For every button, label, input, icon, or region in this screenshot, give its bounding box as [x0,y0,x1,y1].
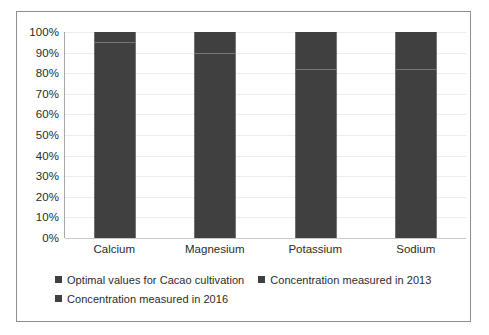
stacked-bar-calcium[interactable] [95,32,136,238]
y-axis-tick-80: 80% [36,67,59,79]
column-slot-potassium [266,32,366,238]
y-axis-tick-10: 10% [36,211,59,223]
legend-item-concentration-2016[interactable]: Concentration measured in 2016 [55,293,228,305]
y-axis-tick-60: 60% [36,108,59,120]
bar-segment-magnesium-s1[interactable] [195,32,236,54]
x-axis-label-magnesium: Magnesium [165,243,266,255]
x-axis-label-potassium: Potassium [265,243,366,255]
y-axis-tick-50: 50% [36,129,59,141]
chart-frame: 0% 10% 20% 30% 40% 50% 60% 70% 80% 90% 1… [16,11,471,322]
y-axis-tick-70: 70% [36,88,59,100]
bar-series-group [65,32,466,238]
bar-segment-potassium-s1[interactable] [295,32,336,70]
stacked-bar-magnesium[interactable] [195,32,236,238]
y-axis-tick-100: 100% [29,26,59,38]
column-slot-magnesium [165,32,265,238]
legend-swatch-icon [258,276,265,283]
chart-legend: Optimal values for Cacao cultivation Con… [55,270,455,308]
y-axis-tick-0: 0% [42,232,59,244]
legend-swatch-icon [55,295,62,302]
column-slot-calcium [65,32,165,238]
legend-swatch-icon [55,276,62,283]
bar-segment-calcium-s1[interactable] [95,32,136,43]
legend-row-2: Concentration measured in 2016 [55,289,455,308]
plot-area: 0% 10% 20% 30% 40% 50% 60% 70% 80% 90% 1… [64,32,466,238]
stacked-bar-potassium[interactable] [295,32,336,238]
bar-segment-potassium-s0[interactable] [295,70,336,238]
legend-label: Optimal values for Cacao cultivation [67,274,244,286]
y-axis-tick-40: 40% [36,150,59,162]
x-axis-label-calcium: Calcium [64,243,165,255]
stacked-bar-sodium[interactable] [395,32,436,238]
legend-item-concentration-2013[interactable]: Concentration measured in 2013 [258,274,431,286]
y-axis-tick-30: 30% [36,170,59,182]
legend-label: Concentration measured in 2016 [67,293,228,305]
legend-row-1: Optimal values for Cacao cultivation Con… [55,270,455,289]
x-axis-label-sodium: Sodium [366,243,467,255]
gridline-0 [65,238,466,239]
x-axis-labels: Calcium Magnesium Potassium Sodium [64,243,466,255]
legend-item-optimal-values[interactable]: Optimal values for Cacao cultivation [55,274,244,286]
y-axis-tick-90: 90% [36,47,59,59]
legend-label: Concentration measured in 2013 [270,274,431,286]
column-slot-sodium [366,32,466,238]
bar-segment-sodium-s0[interactable] [395,70,436,238]
bar-segment-magnesium-s0[interactable] [195,54,236,239]
bar-segment-sodium-s1[interactable] [395,32,436,70]
y-axis-tick-20: 20% [36,191,59,203]
bar-segment-calcium-s0[interactable] [95,43,136,238]
